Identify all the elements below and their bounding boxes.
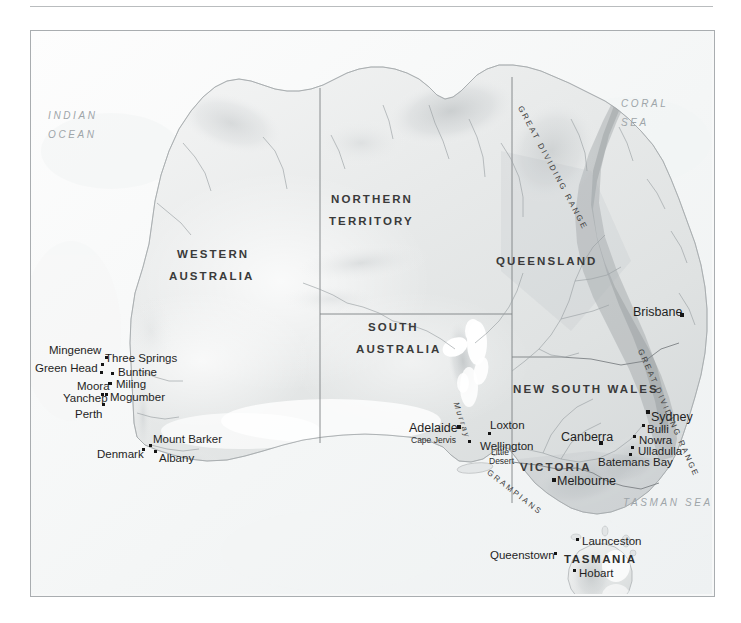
- state-label-victoria: VICTORIA: [520, 462, 592, 474]
- city-marker-ulladulla[interactable]: [631, 446, 634, 449]
- minor-label-desert: Desert: [489, 457, 514, 466]
- city-label-miling[interactable]: Miling: [116, 379, 146, 391]
- minor-label-cape-jervis: Cape Jervis: [411, 436, 456, 445]
- map-terrain-svg: [31, 31, 712, 594]
- australia-map-panel[interactable]: INDIANOCEANCORALSEATASMAN SEAWESTERNAUST…: [30, 30, 715, 597]
- city-marker-bulli[interactable]: [642, 424, 645, 427]
- city-marker-nowra[interactable]: [633, 435, 636, 438]
- city-label-moora[interactable]: Moora: [77, 381, 110, 393]
- sea-label-coral-sea: CORALSEA: [621, 99, 668, 128]
- state-label-tasmania: TASMANIA: [564, 554, 637, 566]
- sea-label-line1: TASMAN SEA: [623, 498, 713, 508]
- city-label-batemans-bay[interactable]: Batemans Bay: [598, 457, 673, 469]
- city-marker-sydney[interactable]: [646, 410, 650, 414]
- city-marker-mogumber[interactable]: [105, 393, 108, 396]
- state-label-south: SOUTH: [368, 322, 419, 334]
- city-label-perth[interactable]: Perth: [75, 409, 103, 421]
- city-label-adelaide[interactable]: Adelaide: [409, 422, 458, 435]
- state-label-new-south-wales: NEW SOUTH WALES: [513, 384, 659, 396]
- city-marker-miling[interactable]: [109, 382, 112, 385]
- city-label-queenstown[interactable]: Queenstown: [490, 550, 555, 562]
- sea-label-tasman-sea: TASMAN SEA: [623, 498, 713, 508]
- city-marker-albany[interactable]: [154, 450, 157, 453]
- state-label-australia: AUSTRALIA: [169, 271, 254, 283]
- city-label-loxton[interactable]: Loxton: [490, 420, 525, 432]
- sea-label-line1: INDIAN: [48, 111, 98, 121]
- city-label-mount-barker[interactable]: Mount Barker: [153, 434, 222, 446]
- city-label-denmark[interactable]: Denmark: [97, 449, 144, 461]
- city-label-mingenew[interactable]: Mingenew: [49, 345, 101, 357]
- city-marker-green-head[interactable]: [100, 371, 103, 374]
- sea-label-line2: OCEAN: [48, 130, 98, 140]
- city-label-mogumber[interactable]: Mogumber: [110, 392, 165, 404]
- city-label-wellington[interactable]: Wellington: [480, 441, 534, 453]
- city-marker-hobart[interactable]: [573, 569, 576, 572]
- top-divider: [30, 6, 713, 7]
- city-marker-loxton[interactable]: [488, 432, 491, 435]
- state-label-western: WESTERN: [177, 249, 249, 261]
- city-label-buntine[interactable]: Buntine: [118, 367, 157, 379]
- city-label-albany[interactable]: Albany: [159, 453, 194, 465]
- city-marker-perth[interactable]: [102, 403, 105, 406]
- city-marker-three-springs[interactable]: [101, 363, 104, 366]
- sea-label-line2: SEA: [621, 118, 668, 128]
- city-label-yanchep[interactable]: Yanchep: [63, 393, 108, 405]
- city-label-melbourne[interactable]: Melbourne: [557, 475, 616, 488]
- state-label-northern: NORTHERN: [331, 194, 413, 206]
- city-label-three-springs[interactable]: Three Springs: [105, 353, 177, 365]
- city-label-sydney[interactable]: Sydney: [651, 411, 693, 424]
- city-label-launceston[interactable]: Launceston: [582, 536, 641, 548]
- city-marker-melbourne[interactable]: [552, 478, 556, 482]
- map-page: INDIANOCEANCORALSEATASMAN SEAWESTERNAUST…: [0, 0, 741, 623]
- sea-label-indian-ocean: INDIANOCEAN: [48, 111, 98, 140]
- city-marker-buntine[interactable]: [111, 372, 114, 375]
- sea-label-line1: CORAL: [621, 99, 668, 109]
- state-label-australia: AUSTRALIA: [356, 344, 441, 356]
- state-label-territory: TERRITORY: [329, 216, 414, 228]
- city-marker-launceston[interactable]: [576, 538, 579, 541]
- city-label-hobart[interactable]: Hobart: [579, 568, 614, 580]
- state-label-queensland: QUEENSLAND: [496, 256, 598, 268]
- city-marker-mount-barker[interactable]: [149, 444, 152, 447]
- city-label-green-head[interactable]: Green Head: [35, 363, 98, 375]
- city-label-brisbane[interactable]: Brisbane: [633, 306, 682, 319]
- city-label-canberra[interactable]: Canberra: [561, 431, 613, 444]
- city-marker-wellington[interactable]: [468, 440, 471, 443]
